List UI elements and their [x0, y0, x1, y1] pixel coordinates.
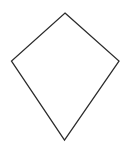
kite-shape	[12, 13, 120, 140]
diagram-canvas	[0, 0, 139, 143]
